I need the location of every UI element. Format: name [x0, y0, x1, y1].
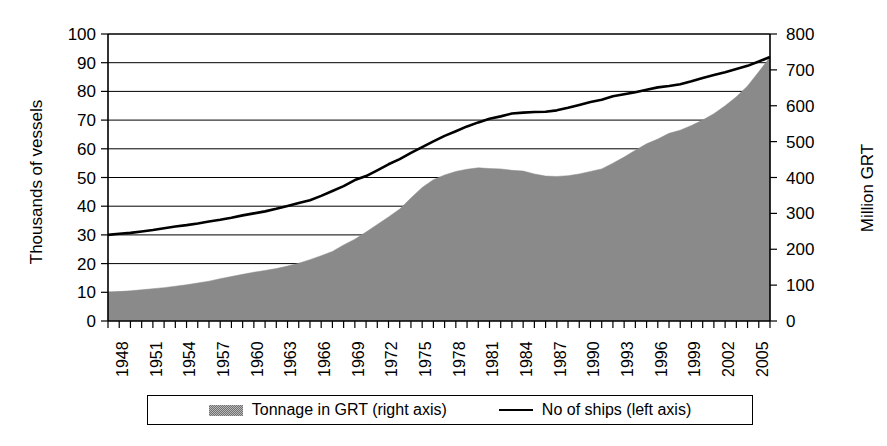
- y-axis-right-tick-label: 600: [786, 98, 834, 115]
- x-axis-tick-label: 1999: [687, 341, 703, 377]
- y-axis-right-tick-label: 200: [786, 241, 834, 258]
- x-axis-tick-label: 1975: [418, 341, 434, 377]
- line-swatch-icon: [499, 409, 533, 411]
- y-axis-left-tick-label: 100: [50, 26, 96, 43]
- x-axis-tick-label: 1948: [115, 341, 131, 377]
- y-axis-left-tick-label: 60: [50, 141, 96, 158]
- x-axis-tick-label: 1969: [351, 341, 367, 377]
- y-axis-right-tick-label: 300: [786, 205, 834, 222]
- legend-item-ships: No of ships (left axis): [499, 401, 691, 419]
- x-axis-tick-label: 1957: [216, 341, 232, 377]
- x-axis-tick-label: 1960: [250, 341, 266, 377]
- y-axis-right-tick-label: 400: [786, 170, 834, 187]
- x-axis-tick-label: 2005: [755, 341, 771, 377]
- x-axis-tick-label: 1987: [553, 341, 569, 377]
- x-axis-tick-label: 1963: [283, 341, 299, 377]
- y-axis-left-tick-label: 70: [50, 112, 96, 129]
- y-axis-left-tick-label: 50: [50, 170, 96, 187]
- area-series-tonnage: [108, 57, 770, 321]
- x-axis-tick-label: 1993: [620, 341, 636, 377]
- x-axis-tick-label: 1984: [519, 341, 535, 377]
- x-axis-tick-label: 1990: [586, 341, 602, 377]
- y-axis-left-tick-label: 20: [50, 256, 96, 273]
- y-axis-right-tick-label: 700: [786, 62, 834, 79]
- y-axis-left-tick-label: 80: [50, 83, 96, 100]
- area-swatch-icon: [209, 405, 243, 416]
- x-axis-tick-label: 1972: [384, 341, 400, 377]
- y-axis-left-tick-label: 10: [50, 284, 96, 301]
- y-axis-right-title: Million GRT: [858, 88, 878, 288]
- chart-container: Thousands of vessels Million GRT 0102030…: [0, 0, 887, 446]
- area-path: [108, 57, 770, 321]
- y-axis-left-tick-label: 0: [50, 313, 96, 330]
- legend-label-tonnage: Tonnage in GRT (right axis): [252, 401, 447, 419]
- x-axis-tick-label: 1981: [485, 341, 501, 377]
- y-axis-right-tick-label: 800: [786, 26, 834, 43]
- x-axis-tick-label: 1954: [182, 341, 198, 377]
- y-axis-right-tick-label: 500: [786, 134, 834, 151]
- x-axis-tick-label: 1996: [654, 341, 670, 377]
- y-axis-left-tick-label: 90: [50, 55, 96, 72]
- x-axis-tick-label: 1966: [317, 341, 333, 377]
- chart-legend: Tonnage in GRT (right axis) No of ships …: [147, 395, 753, 425]
- x-axis-tick-label: 1978: [452, 341, 468, 377]
- y-axis-right-tick-label: 100: [786, 277, 834, 294]
- y-axis-left-tick-label: 30: [50, 227, 96, 244]
- y-axis-left-tick-label: 40: [50, 198, 96, 215]
- y-axis-right-tick-label: 0: [786, 313, 834, 330]
- plot-area: [0, 0, 887, 446]
- legend-label-ships: No of ships (left axis): [542, 401, 691, 419]
- x-axis-tick-label: 1951: [149, 341, 165, 377]
- y-axis-left-title: Thousands of vessels: [27, 82, 47, 282]
- legend-item-tonnage: Tonnage in GRT (right axis): [209, 401, 447, 419]
- x-axis-tick-label: 2002: [721, 341, 737, 377]
